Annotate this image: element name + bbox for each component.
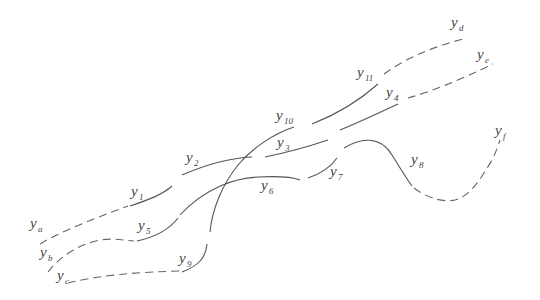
label-yf: y f [493,122,507,141]
svg-text:y: y [384,84,393,100]
label-y7: y 7 [328,163,343,182]
svg-text:c: c [65,276,69,286]
curve-ye-exit [408,64,493,98]
svg-text:2: 2 [194,158,199,168]
svg-text:1: 1 [139,192,144,202]
svg-text:y: y [38,244,47,260]
svg-text:y: y [493,122,502,138]
svg-text:y: y [259,177,268,193]
curve-yd-exit [384,38,467,74]
svg-text:d: d [459,23,464,33]
svg-text:a: a [38,224,43,234]
label-y9: y 9 [177,250,192,269]
svg-text:6: 6 [269,186,274,196]
label-y11: y 11 [355,64,373,83]
svg-text:y: y [328,163,337,179]
curve-yf-exit [414,140,500,201]
svg-text:5: 5 [146,226,151,236]
svg-text:7: 7 [338,172,343,182]
label-y1: y 1 [129,183,144,202]
svg-text:y: y [275,134,284,150]
label-yc: y c [55,267,69,286]
svg-text:f: f [503,131,507,141]
label-y6: y 6 [259,177,274,196]
svg-text:y: y [177,250,186,266]
label-y3: y 3 [275,134,290,153]
trajectory-diagram: y a y b y c y d y e y f y 1 y 2 y 3 y 4 … [0,0,540,300]
label-y5: y 5 [136,217,151,236]
svg-text:y: y [274,107,283,123]
svg-text:y: y [355,64,364,80]
svg-text:y: y [136,217,145,233]
svg-text:y: y [129,183,138,199]
svg-text:y: y [28,215,37,231]
label-y10: y 10 [274,107,294,126]
label-ye: y e [475,46,489,65]
svg-text:y: y [449,14,458,30]
svg-text:y: y [184,149,193,165]
curve-y4 [340,104,398,130]
svg-text:e: e [485,55,489,65]
curve-y3 [265,140,328,157]
label-yb: y b [38,244,53,263]
label-y2: y 2 [184,149,199,168]
curve-y6 [180,177,300,215]
svg-text:9: 9 [187,259,192,269]
label-y8: y 8 [409,151,424,170]
svg-text:4: 4 [394,93,399,103]
curve-yc-entry [68,271,180,283]
svg-text:8: 8 [419,160,424,170]
svg-text:y: y [475,46,484,62]
label-y4: y 4 [384,84,399,103]
curve-y9 [182,244,207,272]
svg-text:11: 11 [365,73,373,83]
svg-text:y: y [55,267,64,283]
curve-ya-entry [40,206,128,244]
svg-text:3: 3 [284,143,290,153]
svg-text:y: y [409,151,418,167]
label-yd: y d [449,14,464,33]
svg-text:b: b [48,253,53,263]
svg-text:10: 10 [284,116,294,126]
curve-y8 [344,140,412,186]
label-ya: y a [28,215,43,234]
